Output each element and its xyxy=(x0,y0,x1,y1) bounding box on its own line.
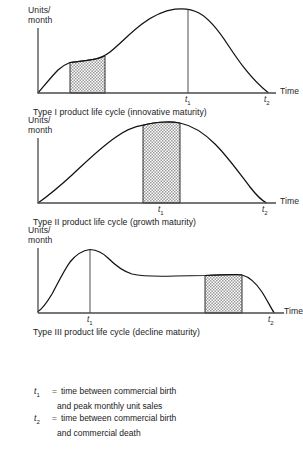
y-axis-label-line1: Units/ xyxy=(28,225,51,235)
shaded-band-type-iii xyxy=(205,275,242,313)
legend: t1 = time between commercial birth and p… xyxy=(30,386,280,439)
legend-symbol-t1: t1 xyxy=(30,386,48,401)
caption-type-iii: Type III product life cycle (decline mat… xyxy=(33,327,200,337)
t1-tick-label-type-iii: t1 xyxy=(87,315,93,326)
chart-panel-type-ii: Units/ month Time t1 t2 xyxy=(0,110,303,220)
x-axis-label-type-ii: Time xyxy=(280,196,299,206)
legend-entry-t1: t1 = time between commercial birth and p… xyxy=(30,386,280,413)
product-life-cycle-figure: Units/ month Time t1 t2 Type I product l… xyxy=(0,0,303,452)
y-axis-label-line2: month xyxy=(28,125,52,135)
y-axis-label-line2: month xyxy=(28,235,52,245)
t2-tick-label-type-iii: t2 xyxy=(268,315,274,326)
shaded-band-type-ii xyxy=(143,122,180,203)
legend-text-t2-line2: and commercial death xyxy=(30,428,280,439)
y-axis-label-line2: month xyxy=(28,15,52,25)
t2-tick-label-type-i: t2 xyxy=(264,95,270,106)
y-axis-label-type-ii: Units/ month xyxy=(28,115,52,136)
t1-tick-label-type-ii: t1 xyxy=(158,205,164,216)
y-axis-label-line1: Units/ xyxy=(28,115,51,125)
legend-text-t2-line1: time between commercial birth xyxy=(61,413,280,424)
legend-text-t1-line2: and peak monthly unit sales xyxy=(30,401,280,412)
x-axis-label-type-iii: Time xyxy=(284,306,303,316)
legend-entry-t2: t2 = time between commercial birth and c… xyxy=(30,413,280,440)
chart-panel-type-iii: Units/ month Time t1 t2 xyxy=(0,220,303,330)
chart-panel-type-i: Units/ month Time t1 t2 xyxy=(0,0,303,110)
t1-tick-label-type-i: t1 xyxy=(185,95,191,106)
y-axis-label-type-iii: Units/ month xyxy=(28,225,52,246)
legend-equals-t1: = xyxy=(48,386,61,397)
y-axis-label-line1: Units/ xyxy=(28,5,51,15)
y-axis-label-type-i: Units/ month xyxy=(28,5,52,26)
legend-symbol-t2: t2 xyxy=(30,413,48,428)
x-axis-label-type-i: Time xyxy=(280,86,299,96)
t2-tick-label-type-ii: t2 xyxy=(262,205,268,216)
legend-text-t1-line1: time between commercial birth xyxy=(61,386,280,397)
legend-equals-t2: = xyxy=(48,413,61,424)
